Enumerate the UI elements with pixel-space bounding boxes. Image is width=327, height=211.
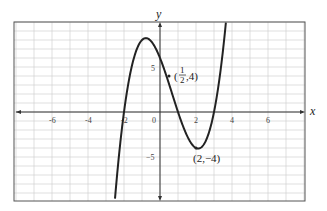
y-axis-label: y: [155, 7, 162, 21]
svg-text:(: (: [174, 70, 178, 83]
svg-text:2: 2: [180, 75, 185, 85]
y-axis-down-arrow-icon: [158, 196, 162, 201]
x-tick-label: 4: [230, 116, 234, 125]
x-axis-left-arrow-icon: [16, 110, 21, 114]
point-label-half-4: ( 1 2 ,4): [174, 65, 198, 85]
x-tick-label: 2: [194, 116, 198, 125]
svg-text:,4): ,4): [186, 70, 198, 83]
point-2-neg4: [195, 147, 198, 150]
x-tick-label: 6: [266, 116, 270, 125]
x-tick-label: -6: [49, 116, 56, 125]
x-axis-label: x: [309, 104, 316, 118]
x-tick-label: -4: [85, 116, 92, 125]
svg-text:1: 1: [180, 65, 185, 75]
y-tick-label: −5: [146, 153, 155, 162]
y-axis-up-arrow-icon: [158, 22, 162, 27]
x-tick-label: 0: [152, 116, 156, 125]
y-tick-label: 5: [151, 64, 155, 73]
cubic-graph: x y -6 -4 -2 0 2 4 6 5 −5 ( 1 2 ,4) (2,−…: [0, 0, 327, 211]
point-label-2-neg4: (2,−4): [193, 152, 221, 165]
point-half-4: [168, 75, 171, 78]
